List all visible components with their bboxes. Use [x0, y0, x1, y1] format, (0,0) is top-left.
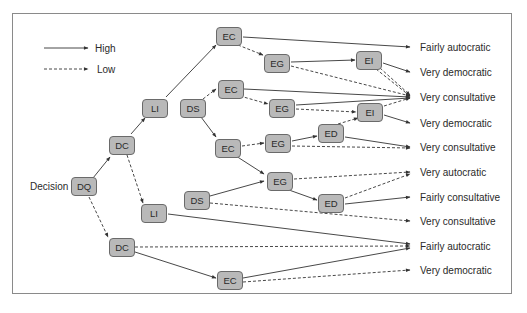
node-eg1: EG	[264, 54, 290, 73]
node-ei2: EI	[357, 103, 383, 122]
outcome-2: Very democratic	[420, 67, 492, 78]
outcome-8: Very consultative	[420, 216, 496, 227]
node-dc-high: DC	[109, 136, 135, 155]
outcome-3: Very consultative	[420, 92, 496, 103]
outcome-5: Very consultative	[420, 142, 496, 153]
node-ec1: EC	[216, 27, 242, 46]
node-eg2: EG	[269, 99, 295, 118]
node-eg3: EG	[265, 134, 291, 153]
outcome-1: Fairly autocratic	[420, 42, 491, 53]
node-dq: DQ	[71, 177, 97, 196]
outcome-6: Very autocratic	[420, 167, 486, 178]
node-dc-low: DC	[109, 238, 135, 257]
node-ec2: EC	[218, 80, 244, 99]
root-label: Decision	[30, 181, 68, 192]
node-ei1: EI	[356, 51, 382, 70]
node-li-high: LI	[142, 99, 168, 118]
node-ed2: ED	[318, 194, 344, 213]
node-ec3: EC	[215, 139, 241, 158]
outcome-4: Very democratic	[420, 118, 492, 129]
legend-low-label: Low	[97, 64, 115, 75]
node-eg4: EG	[267, 172, 293, 191]
node-ed1: ED	[318, 124, 344, 143]
node-ds-bottom: DS	[184, 191, 210, 210]
outcome-9: Fairly autocratic	[420, 241, 491, 252]
outcome-10: Very democratic	[420, 265, 492, 276]
node-li-low: LI	[141, 204, 167, 223]
outcome-7: Fairly consultative	[420, 192, 500, 203]
node-ds-top: DS	[180, 99, 206, 118]
legend-high-label: High	[95, 43, 116, 54]
node-ec4: EC	[217, 271, 243, 290]
